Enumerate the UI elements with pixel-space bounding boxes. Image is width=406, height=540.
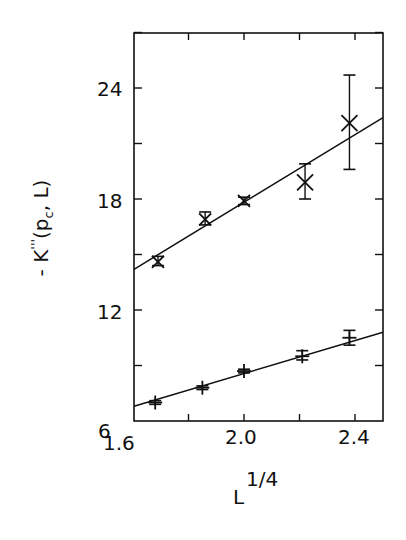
- y-tick-label: 18: [97, 189, 122, 213]
- data-point-upper: [199, 212, 211, 225]
- data-point-lower: [237, 364, 251, 378]
- data-point-upper: [152, 256, 164, 268]
- fit-line-upper: [134, 118, 383, 270]
- x-tick-label: 2.0: [225, 425, 257, 449]
- svg-text:L: L: [233, 485, 245, 509]
- data-point-upper: [238, 195, 250, 207]
- plot-frame: [134, 33, 383, 421]
- y-axis-title: - K'''(pc, L): [28, 180, 56, 277]
- fit-line-lower: [134, 332, 383, 406]
- y-tick-label: 24: [97, 77, 122, 101]
- data-point-upper: [341, 75, 357, 169]
- svg-text:- K'''(pc, L): - K'''(pc, L): [28, 180, 56, 277]
- y-tick-label: 12: [97, 300, 122, 324]
- fit-lines: [134, 118, 383, 407]
- y-tick-label: 6: [98, 419, 111, 443]
- axis-ticks: [134, 33, 383, 422]
- data-point-lower: [195, 381, 209, 395]
- x-axis-title: L 1/4: [233, 467, 278, 509]
- svg-text:1/4: 1/4: [246, 467, 278, 491]
- x-tick-label: 2.4: [338, 425, 370, 449]
- data-point-lower: [148, 396, 162, 410]
- data-point-lower: [295, 349, 309, 363]
- chart: 1.62.02.46121824 - K'''(pc, L) L 1/4: [0, 0, 406, 540]
- tick-labels: 1.62.02.46121824: [97, 77, 370, 455]
